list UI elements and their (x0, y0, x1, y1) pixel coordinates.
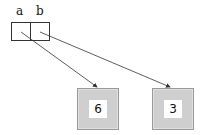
pointer-arrows (0, 0, 204, 135)
